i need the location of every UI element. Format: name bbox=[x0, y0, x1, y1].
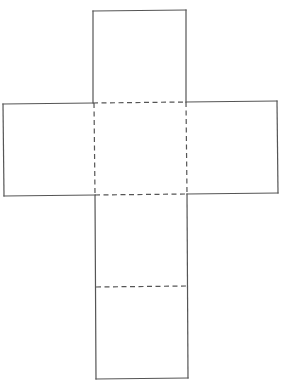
net-edge bbox=[186, 101, 277, 102]
net-edge bbox=[277, 101, 278, 193]
fold-lines bbox=[93, 102, 188, 287]
net-edge bbox=[3, 104, 4, 196]
net-edge bbox=[4, 195, 95, 196]
net-edge bbox=[187, 194, 188, 378]
fold-line bbox=[93, 102, 186, 103]
net-edge bbox=[3, 103, 93, 104]
net-edge bbox=[187, 193, 278, 194]
fold-line bbox=[186, 102, 187, 194]
cube-net-diagram bbox=[0, 0, 289, 388]
fold-line bbox=[96, 286, 188, 287]
fold-line bbox=[95, 194, 187, 195]
net-edge bbox=[96, 378, 188, 379]
net-edge bbox=[95, 195, 96, 379]
net-edge bbox=[93, 10, 186, 11]
fold-line bbox=[94, 103, 95, 195]
